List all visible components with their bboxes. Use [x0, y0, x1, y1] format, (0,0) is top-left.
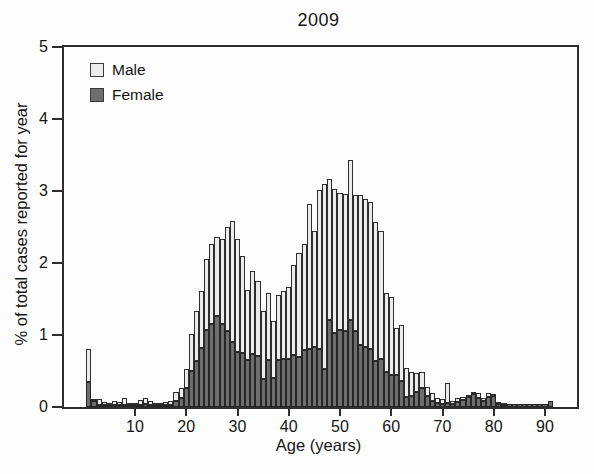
y-tick-2 — [52, 262, 62, 264]
y-tick-label-1: 1 — [20, 326, 48, 344]
x-tick-label-90: 90 — [528, 418, 562, 436]
x-tick-10 — [134, 407, 136, 416]
legend-item-female: Female — [90, 86, 164, 104]
y-tick-0 — [52, 406, 62, 408]
x-tick-60 — [390, 407, 392, 416]
y-tick-label-4: 4 — [20, 110, 48, 128]
x-tick-label-80: 80 — [477, 418, 511, 436]
x-tick-label-20: 20 — [169, 418, 203, 436]
x-axis-label: Age (years) — [62, 436, 575, 455]
male-swatch-icon — [90, 63, 104, 77]
y-tick-4 — [52, 118, 62, 120]
legend-item-male: Male — [90, 61, 164, 79]
y-tick-label-3: 3 — [20, 182, 48, 200]
y-tick-label-0: 0 — [20, 398, 48, 416]
legend: Male Female — [90, 61, 164, 111]
x-tick-40 — [288, 407, 290, 416]
y-axis-label: % of total cases reported for year — [12, 102, 31, 345]
plot-area: 012345 102030405060708090 Male Female — [62, 45, 579, 409]
y-tick-1 — [52, 334, 62, 336]
x-tick-80 — [493, 407, 495, 416]
x-tick-20 — [185, 407, 187, 416]
x-tick-90 — [544, 407, 546, 416]
x-tick-label-10: 10 — [118, 418, 152, 436]
y-tick-3 — [52, 190, 62, 192]
y-tick-label-5: 5 — [20, 38, 48, 56]
chart-title: 2009 — [62, 10, 575, 31]
x-tick-30 — [237, 407, 239, 416]
legend-label-female: Female — [112, 86, 164, 104]
figure-age-distribution-2009: 2009 % of total cases reported for year … — [0, 0, 594, 474]
x-tick-label-30: 30 — [221, 418, 255, 436]
legend-label-male: Male — [112, 61, 146, 79]
x-tick-70 — [442, 407, 444, 416]
female-swatch-icon — [90, 88, 104, 102]
x-tick-label-60: 60 — [374, 418, 408, 436]
y-tick-label-2: 2 — [20, 254, 48, 272]
x-tick-label-40: 40 — [272, 418, 306, 436]
x-tick-label-50: 50 — [323, 418, 357, 436]
y-tick-5 — [52, 46, 62, 48]
x-tick-label-70: 70 — [426, 418, 460, 436]
x-tick-50 — [339, 407, 341, 416]
